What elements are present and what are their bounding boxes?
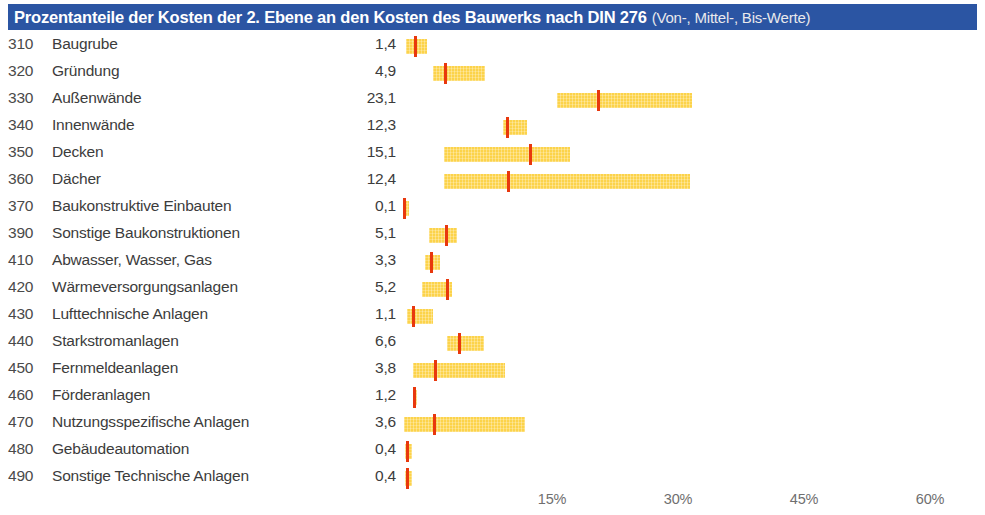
mean-marker bbox=[506, 117, 509, 138]
mean-marker bbox=[406, 441, 409, 462]
row-mean-value: 4,9 bbox=[300, 62, 396, 80]
row-cost-group-label: Abwasser, Wasser, Gas bbox=[52, 251, 212, 269]
range-bar bbox=[447, 336, 484, 351]
mean-marker bbox=[412, 306, 415, 327]
range-bar bbox=[404, 417, 525, 432]
row-cost-group-code: 370 bbox=[8, 197, 50, 215]
x-axis-tick-label: 30% bbox=[664, 491, 692, 507]
row-mean-value: 1,4 bbox=[300, 35, 396, 53]
row-cost-group-label: Decken bbox=[52, 143, 103, 161]
mean-marker bbox=[414, 36, 417, 57]
table-row[interactable]: 370Baukonstruktive Einbauten0,1 bbox=[0, 194, 985, 221]
row-cost-group-label: Fernmeldeanlagen bbox=[52, 359, 178, 377]
row-cost-group-code: 320 bbox=[8, 62, 50, 80]
chart-plot-area: 310Baugrube1,4320Gründung4,9330Außenwänd… bbox=[0, 32, 985, 515]
row-cost-group-code: 420 bbox=[8, 278, 50, 296]
row-cost-group-label: Wärmeversorgungsanlagen bbox=[52, 278, 238, 296]
table-row[interactable]: 430Lufttechnische Anlagen1,1 bbox=[0, 302, 985, 329]
row-mean-value: 23,1 bbox=[300, 89, 396, 107]
mean-marker bbox=[597, 90, 600, 111]
x-axis: 15%30%45%60% bbox=[0, 491, 985, 513]
table-row[interactable]: 350Decken15,1 bbox=[0, 140, 985, 167]
mean-marker bbox=[507, 171, 510, 192]
table-row[interactable]: 470Nutzungsspezifische Anlagen3,6 bbox=[0, 410, 985, 437]
row-cost-group-code: 340 bbox=[8, 116, 50, 134]
range-bar bbox=[444, 174, 689, 189]
row-mean-value: 3,6 bbox=[300, 413, 396, 431]
page-title: Prozentanteile der Kosten der 2. Ebene a… bbox=[14, 8, 647, 27]
row-mean-value: 0,1 bbox=[300, 197, 396, 215]
table-row[interactable]: 440Starkstromanlagen6,6 bbox=[0, 329, 985, 356]
table-row[interactable]: 310Baugrube1,4 bbox=[0, 32, 985, 59]
mean-marker bbox=[458, 333, 461, 354]
x-axis-tick-label: 60% bbox=[916, 491, 944, 507]
row-cost-group-code: 440 bbox=[8, 332, 50, 350]
table-row[interactable]: 480Gebäudeautomation0,4 bbox=[0, 437, 985, 464]
row-mean-value: 12,4 bbox=[300, 170, 396, 188]
row-mean-value: 1,2 bbox=[300, 386, 396, 404]
mean-marker bbox=[445, 225, 448, 246]
row-cost-group-code: 390 bbox=[8, 224, 50, 242]
range-bar bbox=[444, 147, 570, 162]
row-cost-group-label: Sonstige Technische Anlagen bbox=[52, 467, 249, 485]
row-cost-group-code: 450 bbox=[8, 359, 50, 377]
row-cost-group-label: Gebäudeautomation bbox=[52, 440, 189, 458]
range-bar bbox=[413, 363, 505, 378]
mean-marker bbox=[434, 360, 437, 381]
table-row[interactable]: 320Gründung4,9 bbox=[0, 59, 985, 86]
page-subtitle: (Von-, Mittel-, Bis-Werte) bbox=[652, 9, 811, 26]
table-row[interactable]: 490Sonstige Technische Anlagen0,4 bbox=[0, 464, 985, 491]
row-cost-group-code: 360 bbox=[8, 170, 50, 188]
mean-marker bbox=[446, 279, 449, 300]
row-cost-group-label: Innenwände bbox=[52, 116, 134, 134]
range-bar bbox=[407, 309, 434, 324]
range-bar bbox=[433, 66, 485, 81]
row-cost-group-label: Baugrube bbox=[52, 35, 118, 53]
row-mean-value: 1,1 bbox=[300, 305, 396, 323]
row-mean-value: 5,1 bbox=[300, 224, 396, 242]
row-mean-value: 5,2 bbox=[300, 278, 396, 296]
row-cost-group-label: Nutzungsspezifische Anlagen bbox=[52, 413, 249, 431]
table-row[interactable]: 340Innenwände12,3 bbox=[0, 113, 985, 140]
table-row[interactable]: 460Förderanlagen1,2 bbox=[0, 383, 985, 410]
row-cost-group-code: 480 bbox=[8, 440, 50, 458]
table-row[interactable]: 410Abwasser, Wasser, Gas3,3 bbox=[0, 248, 985, 275]
mean-marker bbox=[430, 252, 433, 273]
row-cost-group-code: 430 bbox=[8, 305, 50, 323]
row-cost-group-label: Außenwände bbox=[52, 89, 141, 107]
mean-marker bbox=[444, 63, 447, 84]
table-row[interactable]: 330Außenwände23,1 bbox=[0, 86, 985, 113]
row-mean-value: 0,4 bbox=[300, 467, 396, 485]
mean-marker bbox=[529, 144, 532, 165]
row-cost-group-label: Lufttechnische Anlagen bbox=[52, 305, 208, 323]
row-mean-value: 3,3 bbox=[300, 251, 396, 269]
row-cost-group-label: Förderanlagen bbox=[52, 386, 150, 404]
x-axis-tick-label: 15% bbox=[538, 491, 566, 507]
table-row[interactable]: 390Sonstige Baukonstruktionen5,1 bbox=[0, 221, 985, 248]
table-row[interactable]: 450Fernmeldeanlagen3,8 bbox=[0, 356, 985, 383]
row-cost-group-code: 460 bbox=[8, 386, 50, 404]
row-cost-group-label: Gründung bbox=[52, 62, 119, 80]
row-cost-group-code: 470 bbox=[8, 413, 50, 431]
row-cost-group-code: 490 bbox=[8, 467, 50, 485]
row-mean-value: 12,3 bbox=[300, 116, 396, 134]
range-bar bbox=[557, 93, 692, 108]
row-cost-group-label: Baukonstruktive Einbauten bbox=[52, 197, 231, 215]
chart-title-bar: Prozentanteile der Kosten der 2. Ebene a… bbox=[8, 4, 977, 30]
row-cost-group-code: 350 bbox=[8, 143, 50, 161]
row-cost-group-label: Starkstromanlagen bbox=[52, 332, 179, 350]
mean-marker bbox=[403, 198, 406, 219]
row-cost-group-label: Sonstige Baukonstruktionen bbox=[52, 224, 240, 242]
row-mean-value: 3,8 bbox=[300, 359, 396, 377]
mean-marker bbox=[433, 414, 436, 435]
mean-marker bbox=[406, 468, 409, 489]
table-row[interactable]: 420Wärmeversorgungsanlagen5,2 bbox=[0, 275, 985, 302]
x-axis-tick-label: 45% bbox=[790, 491, 818, 507]
row-mean-value: 6,6 bbox=[300, 332, 396, 350]
mean-marker bbox=[413, 387, 416, 408]
row-cost-group-code: 310 bbox=[8, 35, 50, 53]
row-mean-value: 0,4 bbox=[300, 440, 396, 458]
row-cost-group-code: 330 bbox=[8, 89, 50, 107]
table-row[interactable]: 360Dächer12,4 bbox=[0, 167, 985, 194]
range-bar bbox=[429, 228, 457, 243]
